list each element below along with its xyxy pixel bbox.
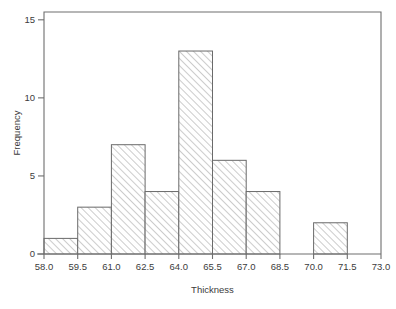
x-axis-ticks: 58.059.561.062.564.065.567.068.570.071.5… xyxy=(35,254,391,272)
histogram-figure: 58.059.561.062.564.065.567.068.570.071.5… xyxy=(0,0,396,309)
histogram-bar xyxy=(179,51,213,254)
y-tick-label: 5 xyxy=(30,170,35,181)
x-tick-label: 71.5 xyxy=(338,261,357,272)
y-tick-label: 0 xyxy=(30,248,35,259)
histogram-bar xyxy=(111,145,145,254)
histogram-bar xyxy=(78,207,112,254)
histogram-bar xyxy=(145,192,179,254)
histogram-bar xyxy=(314,223,348,254)
histogram-bar xyxy=(44,238,78,254)
x-tick-label: 62.5 xyxy=(136,261,155,272)
y-axis-title: Frequency xyxy=(11,110,22,155)
x-tick-label: 73.0 xyxy=(372,261,391,272)
histogram-bar xyxy=(213,160,247,254)
x-tick-label: 70.0 xyxy=(304,261,323,272)
y-tick-label: 10 xyxy=(24,92,35,103)
x-tick-label: 58.0 xyxy=(35,261,54,272)
x-tick-label: 64.0 xyxy=(170,261,189,272)
x-tick-label: 61.0 xyxy=(102,261,121,272)
y-axis-ticks: 051015 xyxy=(24,14,44,259)
x-axis-title: Thickness xyxy=(191,284,234,295)
x-tick-label: 65.5 xyxy=(203,261,222,272)
histogram-plot: 58.059.561.062.564.065.567.068.570.071.5… xyxy=(0,0,396,309)
y-tick-label: 15 xyxy=(24,14,35,25)
x-tick-label: 59.5 xyxy=(68,261,87,272)
x-tick-label: 68.5 xyxy=(271,261,290,272)
histogram-bar xyxy=(246,192,280,254)
x-tick-label: 67.0 xyxy=(237,261,256,272)
